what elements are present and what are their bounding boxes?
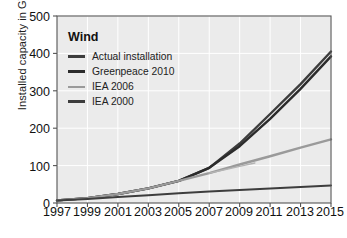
legend-item-label: IEA 2000 [92, 96, 134, 107]
legend-swatch-icon [68, 86, 85, 88]
legend-swatch-icon [68, 100, 85, 103]
legend-item-iea-2006: IEA 2006 [68, 80, 174, 93]
legend-item-iea-2000: IEA 2000 [68, 95, 174, 108]
chart-legend: Wind Actual installation Greenpeace 2010… [68, 31, 174, 110]
legend-item-greenpeace-2010: Greenpeace 2010 [68, 65, 174, 78]
legend-item-label: Greenpeace 2010 [92, 66, 174, 77]
wind-capacity-chart: Installed capacity in GW 500 400 300 200… [0, 0, 347, 238]
legend-item-label: Actual installation [92, 51, 172, 62]
legend-swatch-icon [68, 55, 85, 58]
legend-title: Wind [68, 31, 174, 44]
legend-item-label: IEA 2006 [92, 81, 134, 92]
legend-item-actual-installation: Actual installation [68, 50, 174, 63]
legend-swatch-icon [68, 70, 85, 73]
